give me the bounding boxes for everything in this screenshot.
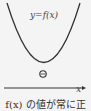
graph-figure: y=f(x) x f(x) の値が常に正	[0, 0, 91, 111]
x-axis-label: x	[76, 84, 81, 94]
function-label: y=f(x)	[30, 10, 58, 20]
caption: f(x) の値が常に正	[0, 96, 91, 111]
arrow-head-icon	[82, 86, 86, 90]
